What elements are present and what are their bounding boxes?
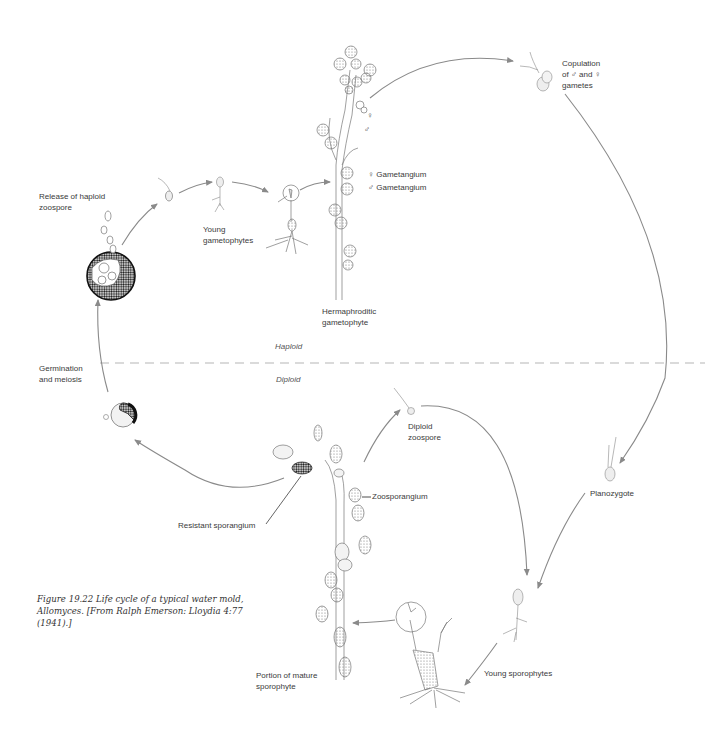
- label-male-gametangium: ♂ Gametangium: [368, 182, 426, 193]
- germinating-spore-illustration: [104, 403, 136, 427]
- label-germination-meiosis: Germination and meiosis: [39, 363, 83, 385]
- young-zoospore-illustration: [158, 178, 173, 201]
- diploid-zoospore-illustration: [394, 388, 415, 415]
- label-zoosporangium: Zoosporangium: [372, 491, 428, 502]
- label-release-haploid-zoospore: Release of haploid zoospore: [39, 191, 105, 213]
- label-diploid-zoospore: Diploid zoospore: [408, 421, 441, 443]
- copulating-gametes-illustration: [520, 52, 552, 91]
- young-sporophytes-illustration: [396, 602, 465, 708]
- label-planozygote: Planozygote: [590, 488, 634, 499]
- label-diploid-phase: Diploid: [276, 374, 300, 385]
- haploid-zoospore-release-illustration: [87, 211, 135, 300]
- label-copulation-gametes: Copulation of ♂ and ♀ gametes: [562, 58, 601, 91]
- planozygote-illustration: [605, 437, 616, 481]
- label-haploid-phase: Haploid: [275, 341, 302, 352]
- label-young-sporophytes: Young sporophytes: [484, 668, 552, 679]
- life-cycle-diagram: Release of haploid zoospore Young gameto…: [0, 0, 717, 746]
- label-female-gametangium: ♀ Gametangium: [368, 169, 426, 180]
- cycle-arrows: [98, 58, 667, 685]
- label-hermaphroditic-gametophyte: Hermaphroditic gametophyte: [322, 306, 376, 328]
- label-portion-mature-sporophyte: Portion of mature sporophyte: [256, 670, 317, 692]
- young-gametophyte-circled-illustration: [266, 185, 308, 254]
- diagram-artwork: [0, 0, 717, 746]
- young-sporophyte-illustration: [503, 589, 527, 642]
- young-gametophyte-illustration: [212, 177, 224, 212]
- resistant-sporangium-pointer: [266, 476, 301, 524]
- label-young-gametophytes: Young gametophytes: [203, 224, 253, 246]
- label-male-symbol: ♂: [364, 124, 370, 135]
- mature-sporophyte-illustration: [273, 425, 371, 680]
- label-female-symbol: ♀: [367, 110, 373, 121]
- figure-caption: Figure 19.22 Life cycle of a typical wat…: [37, 594, 277, 629]
- label-resistant-sporangium: Resistant sporangium: [178, 520, 255, 531]
